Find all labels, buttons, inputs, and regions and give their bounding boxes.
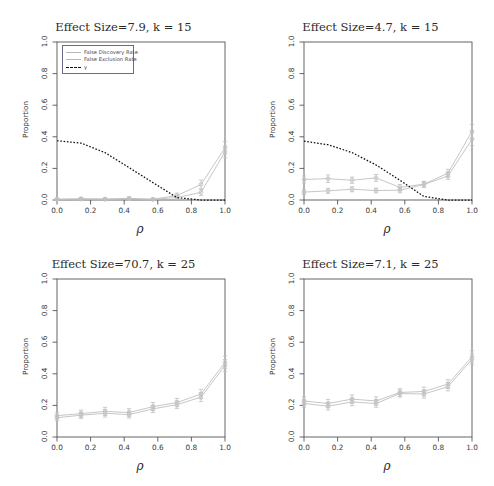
y-tick-label: 0.8 (287, 64, 296, 82)
x-tick-label: 0.0 (294, 443, 314, 452)
x-tick-label: 0.6 (395, 206, 415, 215)
x-tick-label: 0.0 (294, 206, 314, 215)
legend-label: False Exclusion Rate (82, 56, 137, 63)
y-tick-label: 0.4 (287, 127, 296, 145)
legend-line-solid-icon (65, 49, 82, 56)
y-tick-label: 0.2 (40, 159, 49, 177)
x-tick-label: 0.2 (81, 206, 101, 215)
x-tick-label: 0.4 (114, 206, 134, 215)
x-tick-label: 0.2 (328, 206, 348, 215)
y-tick-label: 0.2 (287, 159, 296, 177)
x-tick-label: 1.0 (215, 206, 235, 215)
y-tick-label: 1.0 (287, 270, 296, 288)
legend-label: False Discovery Rate (82, 49, 138, 56)
x-tick-label: 0.2 (328, 443, 348, 452)
x-tick-label: 0.4 (114, 443, 134, 452)
x-tick-label: 0.8 (428, 443, 448, 452)
legend-item-gamma: γ (65, 64, 130, 71)
legend: False Discovery Rate False Exclusion Rat… (62, 45, 134, 74)
series-line (304, 131, 472, 187)
y-tick-label: 0.8 (40, 301, 49, 319)
y-tick-label: 0.8 (287, 301, 296, 319)
y-tick-label: 0.4 (287, 364, 296, 382)
x-tick-label: 1.0 (215, 443, 235, 452)
y-tick-label: 0.4 (40, 364, 49, 382)
x-tick-label: 0.0 (47, 206, 67, 215)
legend-line-solid-icon (65, 56, 82, 63)
x-tick-label: 0.8 (181, 443, 201, 452)
x-tick-label: 1.0 (462, 443, 482, 452)
legend-label: γ (82, 64, 87, 71)
y-tick-label: 0.8 (40, 64, 49, 82)
y-tick-label: 0.2 (287, 396, 296, 414)
x-tick-label: 0.8 (181, 206, 201, 215)
figure-canvas: Effect Size=7.9, k = 15 Proportion ρ Eff… (0, 0, 494, 486)
legend-line-dashed-icon (65, 64, 82, 71)
legend-item-fdr: False Discovery Rate (65, 49, 130, 56)
x-tick-label: 0.4 (361, 206, 381, 215)
x-tick-label: 0.8 (428, 206, 448, 215)
x-tick-label: 0.6 (148, 206, 168, 215)
y-tick-label: 1.0 (40, 270, 49, 288)
y-tick-label: 0.6 (40, 96, 49, 114)
x-tick-label: 0.2 (81, 443, 101, 452)
x-tick-label: 0.4 (361, 443, 381, 452)
x-tick-label: 0.6 (148, 443, 168, 452)
y-tick-label: 0.6 (287, 333, 296, 351)
y-tick-label: 0.6 (40, 333, 49, 351)
y-tick-label: 0.4 (40, 127, 49, 145)
x-tick-label: 0.0 (47, 443, 67, 452)
legend-item-fer: False Exclusion Rate (65, 56, 130, 63)
y-tick-label: 1.0 (40, 33, 49, 51)
y-tick-label: 0.2 (40, 396, 49, 414)
x-tick-label: 1.0 (462, 206, 482, 215)
series-line (304, 357, 472, 404)
y-tick-label: 1.0 (287, 33, 296, 51)
x-tick-label: 0.6 (395, 443, 415, 452)
y-tick-label: 0.6 (287, 96, 296, 114)
series-line (304, 139, 472, 192)
